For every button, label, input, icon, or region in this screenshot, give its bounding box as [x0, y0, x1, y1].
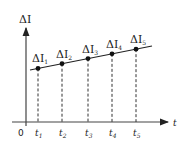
point-marker-4	[110, 51, 115, 56]
point-label-4: ΔI4	[106, 38, 122, 51]
point-label-1: ΔI1	[32, 52, 48, 65]
point-marker-1	[36, 66, 41, 71]
data-point-5: ΔI5t5	[130, 33, 146, 139]
x-axis-label: t	[173, 118, 177, 128]
points-layer: ΔI1t1ΔI2t2ΔI3t3ΔI4t4ΔI5t5	[32, 33, 146, 139]
point-label-2: ΔI2	[56, 48, 72, 61]
point-label-5: ΔI5	[130, 33, 146, 46]
point-marker-3	[86, 56, 91, 61]
tick-label-4: t4	[109, 128, 117, 139]
y-axis-label: ΔI	[19, 13, 31, 26]
data-point-1: ΔI1t1	[32, 52, 48, 139]
point-marker-5	[134, 47, 139, 52]
origin-label: 0	[18, 128, 24, 138]
delta-i-vs-t-diagram: ΔI t 0 ΔI1t1ΔI2t2ΔI3t3ΔI4t4ΔI5t5	[0, 0, 187, 146]
data-point-2: ΔI2t2	[56, 48, 72, 139]
tick-label-5: t5	[133, 128, 141, 139]
point-label-3: ΔI3	[82, 43, 98, 56]
point-marker-2	[60, 61, 65, 66]
tick-label-3: t3	[85, 128, 93, 139]
data-point-4: ΔI4t4	[106, 38, 122, 139]
tick-label-2: t2	[59, 128, 67, 139]
tick-label-1: t1	[35, 128, 42, 139]
